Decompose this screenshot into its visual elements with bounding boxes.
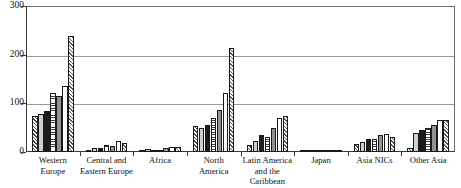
bar xyxy=(86,150,91,152)
bar xyxy=(199,128,204,152)
bar xyxy=(271,128,276,152)
bar xyxy=(50,93,55,152)
bar xyxy=(56,96,61,152)
x-axis-category-label: Other Asia xyxy=(383,155,461,166)
bar xyxy=(44,111,49,152)
bar xyxy=(110,146,115,152)
bar xyxy=(92,148,97,152)
bar xyxy=(437,120,442,152)
bar-chart: 0100200300 Western EuropeCentral and Eas… xyxy=(0,0,461,188)
bar xyxy=(122,143,127,152)
bar xyxy=(259,135,264,152)
bar xyxy=(223,93,228,152)
bar xyxy=(283,116,288,153)
bar xyxy=(360,142,365,152)
bar xyxy=(169,147,174,152)
bar xyxy=(62,86,67,152)
bar xyxy=(104,145,109,152)
bar-group xyxy=(294,6,348,152)
bar xyxy=(378,135,383,152)
bar-group xyxy=(401,6,455,152)
bar xyxy=(145,149,150,152)
bar-group xyxy=(187,6,241,152)
bar xyxy=(253,141,258,152)
bar xyxy=(390,137,395,152)
bar xyxy=(98,148,103,152)
bar xyxy=(330,150,335,152)
bar xyxy=(419,130,424,152)
bar xyxy=(247,145,252,152)
bar xyxy=(431,125,436,152)
bar xyxy=(443,120,448,152)
bar xyxy=(407,148,412,152)
bar xyxy=(217,110,222,152)
bar xyxy=(318,150,323,152)
bar xyxy=(312,150,317,152)
bar-group xyxy=(26,6,80,152)
bar xyxy=(211,118,216,152)
bar xyxy=(336,150,341,152)
bar xyxy=(229,48,234,152)
bar xyxy=(205,125,210,152)
y-axis-tick-mark xyxy=(21,152,26,153)
bar xyxy=(157,150,162,152)
bar xyxy=(277,118,282,152)
bar-group xyxy=(80,6,134,152)
bar xyxy=(384,134,389,152)
bar xyxy=(306,150,311,152)
bar xyxy=(425,128,430,152)
bar xyxy=(265,137,270,152)
bar xyxy=(413,133,418,152)
bar xyxy=(354,144,359,152)
bar xyxy=(151,150,156,152)
x-axis-labels: Western EuropeCentral and Eastern Europe… xyxy=(0,155,461,188)
bar xyxy=(324,150,329,152)
bar xyxy=(193,126,198,152)
bar xyxy=(163,148,168,152)
bar xyxy=(116,141,121,152)
bar xyxy=(175,147,180,152)
bar xyxy=(300,150,305,152)
bar xyxy=(32,116,37,152)
bar xyxy=(38,114,43,152)
bar xyxy=(366,139,371,152)
bar-group xyxy=(348,6,402,152)
bar xyxy=(139,150,144,152)
bar xyxy=(372,139,377,152)
bar-group xyxy=(133,6,187,152)
bar-group xyxy=(241,6,295,152)
bar xyxy=(68,36,73,152)
bars-layer xyxy=(26,6,455,152)
